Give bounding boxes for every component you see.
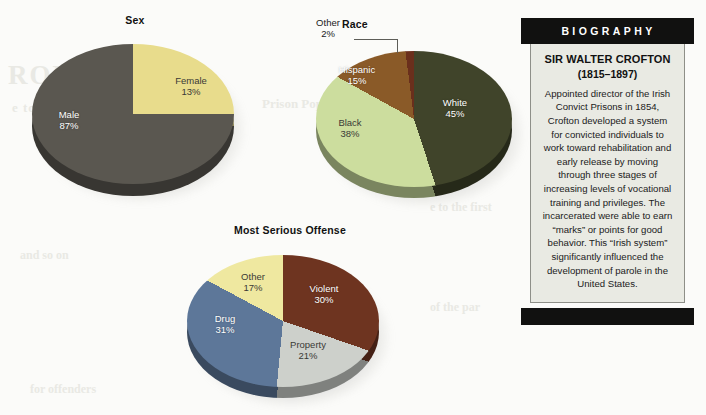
slice-label-black: Black 38% <box>322 118 378 139</box>
slice-label-other: Other 2% <box>302 18 354 39</box>
biography-text: Appointed director of the Irish Convict … <box>542 87 673 291</box>
bleed-text: and so on <box>20 248 69 263</box>
biography-footer-bar <box>521 308 694 325</box>
slice-label-hispanic: Hispanic 15% <box>324 65 390 86</box>
slice-value-violent: 30% <box>295 295 353 306</box>
chart-title-sex: Sex <box>10 14 260 26</box>
slice-value-female: 13% <box>160 87 222 98</box>
chart-title-offense: Most Serious Offense <box>155 224 425 236</box>
bleed-text: for offenders <box>30 382 96 397</box>
biography-header: BIOGRAPHY <box>521 18 694 44</box>
slice-value-other: 2% <box>302 29 354 40</box>
biography-body: SIR WALTER CROFTON (1815–1897) Appointed… <box>530 44 685 303</box>
slice-label-other-offense: Other 17% <box>227 272 279 293</box>
pie-chart-most-serious-offense: Most Serious Offense Other 17% Violent 3… <box>155 222 425 412</box>
slice-value-black: 38% <box>322 129 378 140</box>
slice-label-male: Male 87% <box>40 110 98 131</box>
slice-label-violent: Violent 30% <box>295 284 353 305</box>
pie-chart-race: Race Other 2% Hispanic 15% Black 38% Whi… <box>300 10 540 205</box>
chart-title-race: Race <box>342 18 432 30</box>
slice-value-property: 21% <box>277 351 339 362</box>
slice-value-male: 87% <box>40 121 98 132</box>
slice-value-drug: 31% <box>201 325 249 336</box>
slice-value-other-offense: 17% <box>227 283 279 294</box>
slice-label-property: Property 21% <box>277 340 339 361</box>
slice-value-hispanic: 15% <box>324 76 390 87</box>
biography-subject-dates: (1815–1897) <box>542 68 673 80</box>
bleed-text: of the par <box>430 300 480 315</box>
biography-panel: BIOGRAPHY SIR WALTER CROFTON (1815–1897)… <box>521 18 694 325</box>
slice-value-white: 45% <box>428 109 482 120</box>
slice-label-white: White 45% <box>428 98 482 119</box>
slice-label-female: Female 13% <box>160 76 222 97</box>
pie-chart-sex: Sex Male 87% Female 13% <box>10 10 260 205</box>
slice-label-drug: Drug 31% <box>201 314 249 335</box>
biography-subject-name: SIR WALTER CROFTON <box>542 53 673 67</box>
